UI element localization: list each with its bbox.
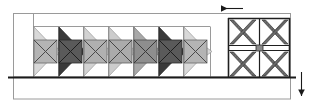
- panel-center-block: [256, 45, 263, 51]
- structural-frame-diagram: [0, 0, 312, 104]
- diagram-canvas: [0, 0, 312, 104]
